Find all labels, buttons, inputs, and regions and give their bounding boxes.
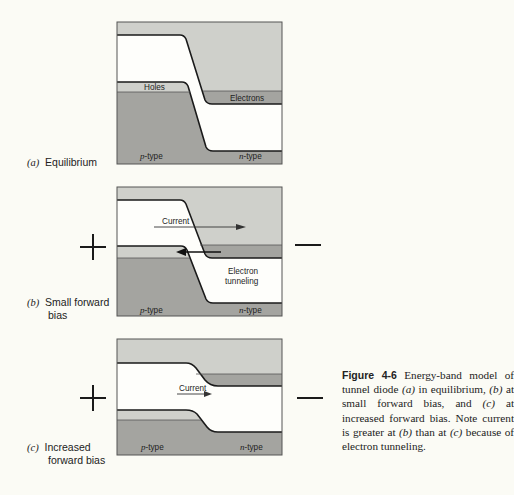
svg-text:n-type: n-type	[239, 151, 262, 161]
tunneling-label-1: Electron	[228, 267, 258, 276]
panel-c-diagram: Current p-type n-type	[117, 339, 282, 455]
tunneling-label-2: tunneling	[225, 277, 259, 286]
figure-caption: Figure 4-6 Energy-band model of tunnel d…	[342, 368, 514, 453]
plus-sign-b	[80, 234, 106, 260]
electrons-label: Electrons	[230, 94, 264, 103]
panel-b-diagram: Current Electron tunneling p-type n-type	[117, 187, 282, 316]
current-label-c: Current	[179, 384, 207, 393]
figure-number: Figure 4-6	[342, 369, 397, 381]
svg-text:n-type: n-type	[239, 305, 262, 315]
svg-text:n-type: n-type	[240, 442, 263, 452]
panel-a-diagram: Holes Electrons p-type n-type	[117, 22, 282, 164]
panel-b-label: (b) Small forward bias	[27, 296, 109, 321]
svg-text:p-type: p-type	[140, 442, 164, 452]
current-label-b: Current	[162, 217, 190, 226]
panel-a-label: (a) Equilibrium	[27, 156, 97, 169]
plus-sign-c	[80, 385, 106, 411]
svg-text:p-type: p-type	[139, 305, 163, 315]
svg-text:p-type: p-type	[139, 151, 163, 161]
panel-c-label: (c) Increased forward bias	[27, 441, 105, 466]
holes-label: Holes	[144, 83, 165, 92]
